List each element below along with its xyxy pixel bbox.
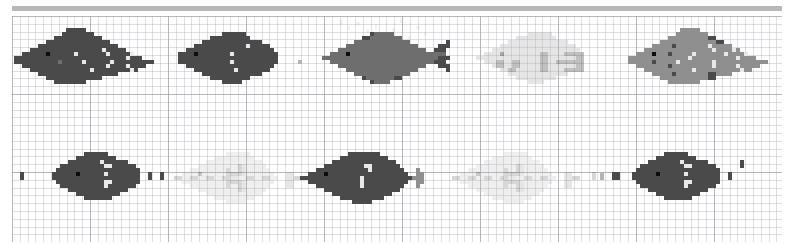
fish-r1-c3-canvas [322,28,466,84]
fish-r2-c5-canvas [600,148,744,204]
fish-r2-c3-canvas [300,148,444,204]
fish-row1-col2[interactable] [170,28,314,84]
fish-r1-c1-canvas [14,28,158,84]
sprite-grid-canvas [0,0,790,244]
fish-r2-c4-canvas [452,148,596,204]
fish-row2-col1[interactable] [20,148,164,204]
fish-row1-col5[interactable] [628,28,772,84]
fish-r2-c1-canvas [20,148,164,204]
top-scrollbar[interactable] [12,6,782,11]
fish-row2-col3[interactable] [300,148,444,204]
graph-paper-surface [12,16,782,242]
smudge-mark [356,22,360,25]
fish-row1-col3[interactable] [322,28,466,84]
fish-row1-col1[interactable] [14,28,158,84]
fish-row2-col2[interactable] [174,148,318,204]
smudge-mark [340,20,343,25]
fish-r1-c4-canvas [476,28,620,84]
fish-row2-col5[interactable] [600,148,744,204]
fish-r1-c5-canvas [628,28,772,84]
smudge-mark [400,18,402,23]
fish-r1-c2-canvas [170,28,314,84]
fish-row2-col4[interactable] [452,148,596,204]
fish-row1-col4[interactable] [476,28,620,84]
fish-r2-c2-canvas [174,148,318,204]
